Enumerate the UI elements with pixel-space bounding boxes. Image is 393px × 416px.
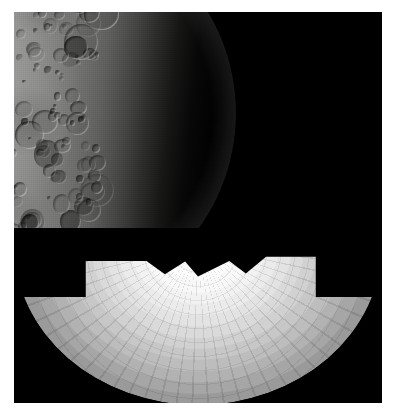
- limb-darkening-sphere-model: [14, 237, 382, 403]
- screenshot-root: [0, 0, 393, 416]
- cratered-moon: [14, 12, 274, 237]
- moon-image-grain: [14, 12, 236, 237]
- moon-disc: [14, 12, 236, 237]
- observation-field: [14, 12, 382, 403]
